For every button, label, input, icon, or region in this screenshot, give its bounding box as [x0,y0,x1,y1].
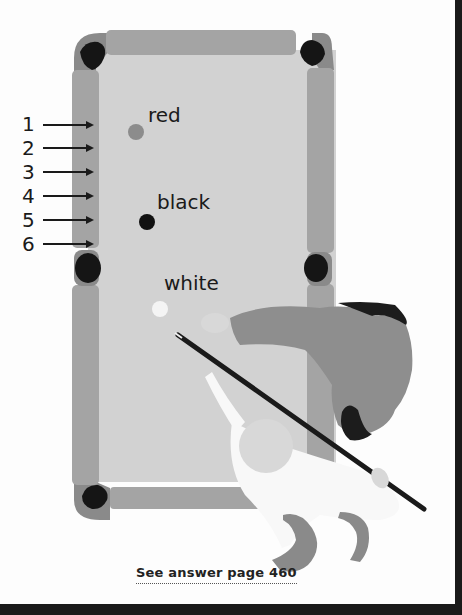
diamond-label-4: 4 [22,186,35,206]
red-ball [128,124,144,140]
diamond-label-2: 2 [22,138,35,158]
diamond-label-5: 5 [22,210,35,230]
cushion-right-upper [307,68,334,253]
white-ball [152,301,168,317]
diamond-label-3: 3 [22,162,35,182]
table-cloth [88,50,336,482]
cushion-left-lower [72,285,99,485]
white-ball-label: white [164,272,219,294]
black-ball-label: black [157,191,210,213]
answer-page-link[interactable]: See answer page 460 [136,565,297,584]
black-ball [139,214,155,230]
player-bridge-hand [201,313,229,333]
player-elbow [239,419,293,473]
pocket-middle-right [304,254,328,282]
cushion-top [106,30,296,55]
pocket-middle-left [75,253,101,283]
diamond-label-1: 1 [22,114,35,134]
pool-table-illustration [0,0,462,615]
diamond-label-6: 6 [22,234,35,254]
cushion-left-upper [72,70,99,248]
red-ball-label: red [148,104,181,126]
